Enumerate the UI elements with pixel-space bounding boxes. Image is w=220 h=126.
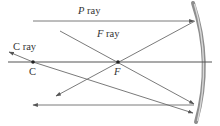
p-ray-reflected — [56, 21, 195, 96]
ray-diagram: P ray F ray C ray C F — [0, 0, 220, 126]
f-point-label: F — [113, 66, 121, 77]
c-point-dot — [31, 60, 35, 64]
f-ray-label: F ray — [96, 28, 120, 39]
c-point-label: C — [29, 66, 36, 77]
p-ray-label: P ray — [77, 5, 101, 16]
f-point-dot — [116, 60, 120, 64]
c-ray-label: C ray — [13, 41, 37, 52]
f-ray-incident — [60, 31, 194, 104]
c-ray-reflected — [9, 52, 33, 62]
